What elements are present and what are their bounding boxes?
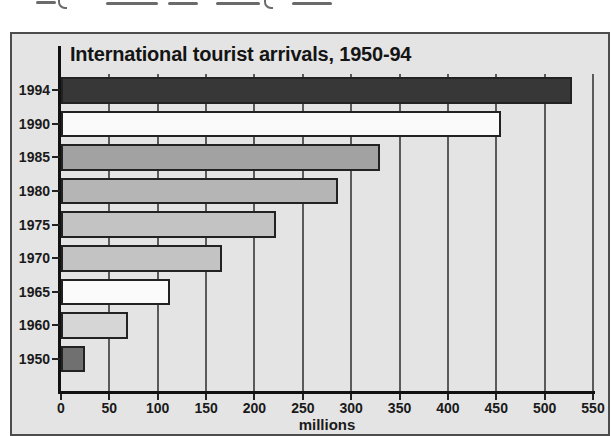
gridline-550: [592, 74, 594, 392]
x-tick-label-350: 350: [380, 400, 420, 416]
year-tick-1950: [52, 358, 60, 360]
year-label-1960: 1960: [12, 317, 50, 333]
bar-1965: [61, 279, 170, 306]
x-axis-line: [58, 391, 595, 394]
x-tick-label-450: 450: [476, 400, 516, 416]
x-tick-label-50: 50: [89, 400, 129, 416]
year-label-1975: 1975: [12, 217, 50, 233]
x-tick-label-0: 0: [41, 400, 81, 416]
year-label-1970: 1970: [12, 250, 50, 266]
year-tick-1970: [52, 257, 60, 259]
chart-panel: International tourist arrivals, 1950-94 …: [10, 32, 610, 436]
year-label-1950: 1950: [12, 351, 50, 367]
x-axis-label: millions: [277, 416, 377, 433]
year-label-1980: 1980: [12, 183, 50, 199]
bar-1994: [61, 77, 572, 104]
year-tick-1994: [52, 89, 60, 91]
x-tick-label-300: 300: [331, 400, 371, 416]
year-label-1994: 1994: [12, 82, 50, 98]
year-label-1990: 1990: [12, 116, 50, 132]
x-tick-label-400: 400: [428, 400, 468, 416]
bar-1980: [61, 178, 338, 205]
x-tick-label-550: 550: [573, 400, 613, 416]
bar-1950: [61, 346, 85, 373]
year-label-1985: 1985: [12, 149, 50, 165]
year-label-1965: 1965: [12, 284, 50, 300]
bar-1985: [61, 144, 380, 171]
year-tick-1990: [52, 123, 60, 125]
chart-title: International tourist arrivals, 1950-94: [70, 43, 411, 66]
bar-1960: [61, 312, 128, 339]
year-tick-1975: [52, 224, 60, 226]
year-tick-1965: [52, 291, 60, 293]
x-tick-label-200: 200: [234, 400, 274, 416]
gridline-500: [544, 74, 546, 392]
year-tick-1980: [52, 190, 60, 192]
x-tick-label-100: 100: [138, 400, 178, 416]
x-tick-label-250: 250: [283, 400, 323, 416]
year-tick-1985: [52, 156, 60, 158]
bar-1970: [61, 245, 222, 272]
bar-1975: [61, 211, 276, 238]
x-tick-label-150: 150: [186, 400, 226, 416]
year-tick-1960: [52, 324, 60, 326]
bar-1990: [61, 111, 501, 138]
x-tick-label-500: 500: [525, 400, 565, 416]
plot-area: International tourist arrivals, 1950-94 …: [12, 34, 608, 434]
cropped-text-fragments: [0, 0, 616, 10]
